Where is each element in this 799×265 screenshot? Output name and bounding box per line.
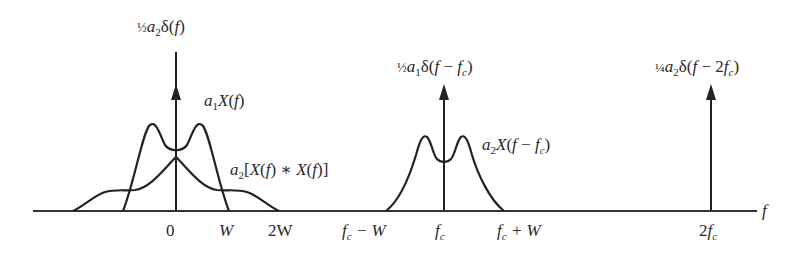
fc-subscript: c (462, 66, 467, 78)
var-X: X (296, 160, 306, 179)
minus-two: − 2 (697, 57, 724, 76)
impulse-fc-arrowhead-icon (439, 84, 449, 100)
paren-close: ) (733, 57, 739, 76)
coef-subscript: 2 (491, 144, 497, 156)
label-a2-convolution: a2[X(f) ∗ X(f)] (230, 161, 328, 178)
tick-label: W (219, 221, 233, 240)
coef-a: a (665, 57, 674, 76)
fraction-quarter: ¼ (655, 60, 665, 75)
tick-W: W (219, 222, 233, 239)
coef-a: a (482, 135, 491, 154)
coef-subscript: 2 (673, 66, 679, 78)
impulse-dc-arrowhead-icon (171, 84, 181, 100)
label-impulse-fc: ½a1δ(f − fc) (397, 58, 473, 75)
tick-fc: fc (435, 222, 445, 239)
bracket-close: )] (317, 160, 328, 179)
fc-subscript: c (712, 230, 717, 242)
spectrum-diagram: ½a2δ(f) ½a1δ(f − fc) ¼a2δ(f − 2fc) a1X(f… (0, 0, 799, 265)
fraction-half: ½ (137, 20, 147, 35)
minus: − (517, 135, 535, 154)
fraction-half: ½ (397, 60, 407, 75)
coef-subscript: 2 (239, 169, 245, 181)
tick-label: 0 (166, 221, 175, 240)
axis-f: f (762, 201, 767, 220)
paren-close: ) (179, 17, 185, 36)
paren-close: ) (239, 91, 245, 110)
delta-open: δ( (679, 57, 693, 76)
var-X: X (218, 91, 228, 110)
coef-a: a (204, 91, 213, 110)
fc-subscript: c (540, 144, 545, 156)
coef-subscript: 1 (415, 66, 421, 78)
label-a2X-carrier: a2X(f − fc) (482, 136, 550, 153)
fc-subscript: c (347, 230, 352, 242)
minus-W: − W (352, 221, 386, 240)
tick-fc-minus-W: fc − W (342, 222, 386, 239)
paren-close: ) (467, 57, 473, 76)
fc-subscript: c (440, 230, 445, 242)
minus: − (439, 57, 457, 76)
diagram-canvas (0, 0, 799, 265)
label-a1X: a1X(f) (204, 92, 244, 109)
paren-close: ) (545, 135, 551, 154)
label-impulse-2fc: ¼a2δ(f − 2fc) (655, 58, 739, 75)
tick-2fc: 2fc (699, 222, 717, 239)
tick-2W: 2W (268, 222, 293, 239)
two: 2 (699, 221, 708, 240)
fc-subscript: c (728, 66, 733, 78)
var-fc: f (535, 135, 540, 154)
plus-W: + W (507, 221, 541, 240)
coef-a: a (230, 160, 239, 179)
coef-subscript: 2 (155, 26, 161, 38)
convolution-operator: ) ∗ (270, 160, 296, 179)
delta-open: δ( (161, 17, 175, 36)
coef-a: a (407, 57, 416, 76)
coef-a: a (147, 17, 156, 36)
coef-subscript: 1 (213, 100, 219, 112)
tick-0: 0 (166, 222, 175, 239)
tick-fc-plus-W: fc + W (497, 222, 541, 239)
tick-label: 2W (268, 221, 293, 240)
var-X: X (496, 135, 506, 154)
axis-variable-label: f (762, 202, 767, 219)
var-X: X (250, 160, 260, 179)
label-impulse-dc: ½a2δ(f) (137, 18, 185, 35)
impulse-2fc-arrowhead-icon (706, 84, 716, 100)
delta-open: δ( (421, 57, 435, 76)
fc-subscript: c (502, 230, 507, 242)
